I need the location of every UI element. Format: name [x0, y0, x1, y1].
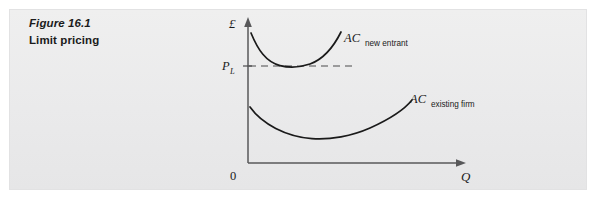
ac-new-entrant-label-main: AC — [343, 31, 361, 45]
ac-new-entrant-label-subscript: new entrant — [365, 39, 409, 48]
figure-container: Figure 16.1 Limit pricing £ Q 0 P L — [0, 0, 610, 198]
x-axis — [248, 159, 466, 167]
limit-pricing-diagram: £ Q 0 P L AC new entrant AC existing fir… — [0, 0, 610, 198]
ac-existing-firm-label-main: AC — [409, 92, 427, 106]
ac-existing-firm-label-subscript: existing firm — [431, 100, 475, 109]
y-axis — [244, 17, 252, 163]
limit-price-label-subscript: L — [229, 66, 235, 76]
limit-price-label-main: P — [221, 59, 230, 73]
ac-new-entrant-curve — [251, 32, 341, 67]
x-axis-label: Q — [461, 169, 471, 184]
ac-existing-firm-curve — [250, 100, 412, 139]
limit-price-label: P L — [221, 59, 235, 76]
ac-new-entrant-label: AC new entrant — [343, 31, 409, 48]
origin-label: 0 — [230, 169, 236, 183]
y-axis-label: £ — [229, 16, 236, 31]
ac-existing-firm-label: AC existing firm — [409, 92, 475, 109]
